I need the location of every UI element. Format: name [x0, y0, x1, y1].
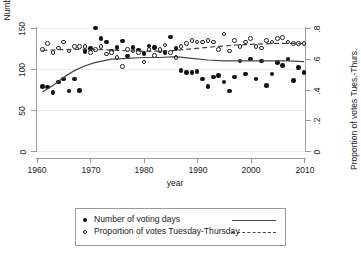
y-axis-left-line	[36, 27, 37, 152]
data-point	[286, 57, 291, 62]
data-point	[200, 40, 205, 45]
data-point	[109, 50, 114, 55]
data-point	[259, 46, 264, 51]
data-point	[104, 40, 109, 45]
y-left-tick-label-150: 150	[17, 19, 27, 39]
data-point	[248, 57, 253, 62]
data-point	[270, 72, 275, 77]
data-point	[184, 41, 189, 46]
data-point	[291, 41, 296, 46]
data-point	[152, 53, 157, 58]
data-point	[83, 49, 88, 54]
data-point	[206, 38, 211, 43]
data-point	[211, 75, 216, 80]
data-point	[227, 49, 232, 54]
data-point	[72, 44, 77, 49]
data-point	[56, 46, 61, 51]
legend-label-voting-days: Number of voting days	[94, 214, 180, 224]
y-left-tick-label-0: 0	[18, 146, 28, 158]
x-tick-1990	[197, 158, 198, 163]
data-point	[254, 44, 259, 49]
y-left-tick-100	[31, 69, 36, 70]
y-left-tick-0	[31, 151, 36, 152]
data-point	[275, 60, 280, 65]
data-point	[168, 50, 173, 55]
y-left-tick-label-50: 50	[17, 103, 27, 119]
data-point	[190, 70, 195, 75]
data-point	[40, 47, 45, 52]
y-axis-left-title: Number of voting days	[2, 0, 12, 38]
data-point	[264, 83, 269, 88]
data-point	[40, 84, 45, 89]
y-left-tick-label-100: 100	[17, 60, 27, 80]
data-point	[115, 45, 120, 50]
data-point	[302, 41, 307, 46]
data-point	[222, 80, 227, 85]
data-point	[227, 89, 232, 94]
data-point	[77, 44, 82, 49]
data-point	[275, 36, 280, 41]
x-axis-title: year	[155, 178, 195, 188]
y-right-tick-label-04: .4	[312, 85, 322, 97]
chart-figure: 150 100 50 0 .8 .6 .4 .2 0 1960 1970 198…	[0, 0, 361, 257]
y-right-tick-04	[306, 90, 311, 91]
data-point	[174, 55, 179, 60]
data-point	[259, 59, 264, 64]
data-point	[286, 40, 291, 45]
data-point	[238, 44, 243, 49]
data-point	[296, 65, 301, 70]
gridline-50	[37, 110, 305, 111]
data-point	[184, 70, 189, 75]
data-point	[216, 73, 221, 78]
data-point	[61, 40, 66, 45]
data-point	[45, 85, 50, 90]
data-point	[120, 39, 125, 44]
data-point	[158, 47, 163, 52]
data-point	[93, 26, 98, 31]
x-axis-line	[36, 158, 306, 159]
data-point	[216, 47, 221, 52]
data-point	[99, 44, 104, 49]
legend-line-dashed	[232, 232, 276, 233]
x-tick-2000	[251, 158, 252, 163]
gridline-150	[37, 28, 305, 29]
data-point	[56, 80, 61, 85]
data-point	[243, 40, 248, 45]
x-tick-label-2000: 2000	[237, 165, 265, 175]
data-point	[67, 49, 72, 54]
data-point	[131, 49, 136, 54]
data-point	[142, 60, 147, 65]
data-point	[51, 90, 56, 95]
gridline-0	[37, 151, 305, 152]
data-point	[195, 69, 200, 74]
data-point	[232, 38, 237, 43]
y-axis-right-title: Proportion of votes Tues.-Thurs.	[349, 20, 359, 170]
data-point	[190, 38, 195, 43]
data-point	[222, 32, 227, 37]
data-point	[115, 55, 120, 60]
data-point	[280, 63, 285, 68]
y-right-tick-label-0: 0	[312, 146, 322, 158]
data-point	[270, 40, 275, 45]
data-point	[163, 43, 168, 48]
y-right-tick-label-06: .6	[312, 54, 322, 66]
data-point	[61, 77, 66, 82]
y-right-tick-02	[306, 120, 311, 121]
data-point	[168, 35, 173, 40]
legend-label-proportion: Proportion of votes Tuesday-Thursday	[94, 226, 240, 236]
data-point	[152, 45, 157, 50]
data-point	[136, 50, 141, 55]
data-point	[248, 36, 253, 41]
data-point	[254, 77, 259, 82]
data-point	[238, 59, 243, 64]
data-point	[83, 44, 88, 49]
data-point	[211, 40, 216, 45]
y-right-tick-06	[306, 59, 311, 60]
data-point	[291, 78, 296, 83]
data-point	[206, 84, 211, 89]
data-point	[125, 54, 130, 59]
data-point	[174, 46, 179, 51]
y-right-tick-08	[306, 28, 311, 29]
x-tick-label-1980: 1980	[130, 165, 158, 175]
data-point	[88, 50, 93, 55]
